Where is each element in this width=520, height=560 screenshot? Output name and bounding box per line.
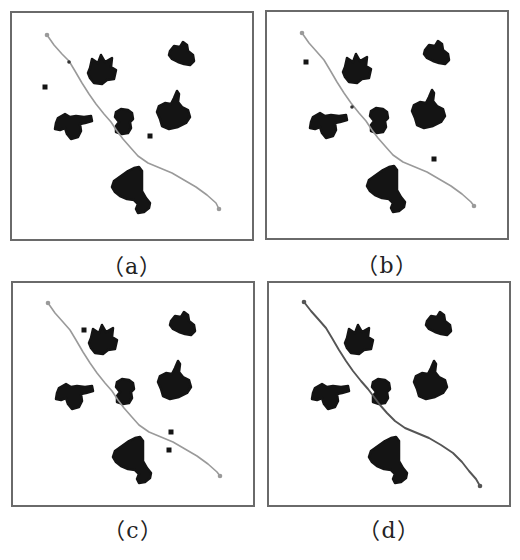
start-point-marker (45, 33, 50, 38)
panel-frame (10, 11, 254, 241)
obstacle-cross-left (55, 114, 92, 139)
panel-frame (265, 10, 509, 240)
map-canvas (269, 283, 513, 509)
panel-frame (11, 281, 255, 507)
small-obstacle-square (304, 60, 309, 65)
map-canvas (267, 12, 511, 242)
obstacle-top-right (169, 42, 194, 65)
obstacle-top-right (170, 312, 195, 335)
obstacle-bell-bottom (113, 437, 151, 483)
obstacle-star-top (88, 55, 116, 84)
obstacle-top-right (424, 41, 449, 64)
obstacle-bell-bottom (112, 167, 150, 213)
end-point-marker (472, 204, 477, 209)
panel-caption-d: （d） (267, 512, 511, 544)
panel-caption-b: （b） (265, 247, 509, 279)
small-obstacle-square (148, 134, 153, 139)
panel-frame (267, 281, 511, 507)
path-marker-dot (67, 60, 71, 64)
end-point-marker (217, 207, 222, 212)
obstacle-small-mid (372, 379, 390, 404)
panel-caption-a: （a） (10, 248, 254, 280)
obstacle-star-top (89, 325, 117, 354)
obstacle-big-right (414, 361, 447, 399)
obstacle-star-top (345, 325, 373, 354)
panel-caption-c: （c） (11, 512, 255, 544)
small-obstacle-square (167, 448, 172, 453)
obstacle-big-right (412, 90, 445, 128)
obstacle-big-right (157, 91, 190, 129)
map-canvas (13, 283, 257, 509)
start-point-marker (300, 31, 305, 36)
end-point-marker (218, 474, 223, 479)
start-point-marker (46, 301, 51, 306)
obstacle-cross-left (312, 384, 349, 409)
obstacle-cross-left (56, 384, 93, 409)
obstacle-small-mid (115, 109, 133, 134)
obstacle-bell-bottom (369, 437, 407, 483)
end-point-marker (478, 484, 483, 489)
small-obstacle-square (43, 85, 48, 90)
obstacle-small-mid (370, 108, 388, 133)
small-obstacle-square (169, 430, 174, 435)
small-obstacle-square (82, 328, 87, 333)
obstacle-top-right (426, 312, 451, 335)
obstacle-star-top (343, 54, 371, 83)
small-obstacle-square (432, 157, 437, 162)
path-marker-dot (350, 105, 354, 109)
map-canvas (12, 13, 256, 243)
obstacle-big-right (158, 361, 191, 399)
obstacle-cross-left (310, 113, 347, 138)
start-point-marker (302, 300, 307, 305)
obstacle-bell-bottom (367, 166, 405, 212)
